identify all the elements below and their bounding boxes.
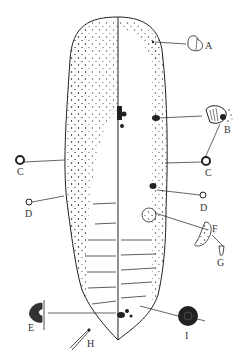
structure-G-icon	[219, 246, 224, 256]
label-G: G	[217, 258, 224, 268]
structure-C-left-icon	[16, 156, 24, 164]
label-H: H	[87, 339, 94, 349]
structure-C-right-icon	[202, 157, 210, 165]
label-E: E	[28, 323, 34, 333]
structure-B-icon	[206, 106, 233, 124]
label-C-left: C	[17, 167, 24, 177]
label-I: I	[185, 331, 188, 341]
label-D-left: D	[25, 209, 32, 219]
structure-D-left-icon	[26, 199, 32, 205]
scale-insect-diagram	[0, 0, 245, 356]
structure-D-right-icon	[200, 192, 206, 198]
structure-A-icon	[188, 36, 203, 51]
insect-body	[65, 17, 168, 340]
label-D-right: D	[200, 203, 207, 213]
structure-I-icon	[178, 306, 205, 326]
label-B: B	[224, 125, 231, 135]
label-A: A	[205, 41, 212, 51]
label-F: F	[212, 224, 218, 234]
label-C-right: C	[205, 168, 212, 178]
structure-F-icon	[195, 222, 211, 246]
